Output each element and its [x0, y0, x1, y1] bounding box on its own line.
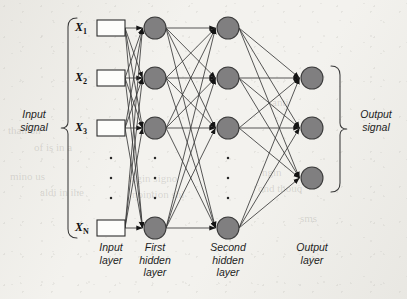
connection-edge-hidden2-to-output — [239, 28, 300, 78]
input-node-3 — [97, 120, 125, 136]
hidden1-ellipsis-dot-1 — [154, 157, 157, 160]
hidden1-node-1 — [144, 17, 166, 39]
hidden1-node-4 — [144, 217, 166, 239]
hidden2-node-2 — [217, 67, 239, 89]
output-signal-label: Output signal — [348, 108, 404, 133]
hidden2-ellipsis-dot-3 — [227, 197, 230, 200]
hidden1-ellipsis-dot-3 — [154, 197, 157, 200]
hidden2-ellipsis-dot-1 — [227, 157, 230, 160]
hidden2-node-1 — [217, 17, 239, 39]
input-variable-name: X — [75, 20, 83, 34]
connection-edge-hidden2-to-output — [239, 128, 300, 228]
connection-edge-hidden2-to-output — [239, 178, 300, 228]
input-variable-subscript: N — [83, 227, 89, 236]
output-node-2 — [301, 117, 323, 139]
input-ellipsis-dot-3 — [110, 197, 113, 200]
input-variable-name: X — [75, 70, 83, 84]
second-hidden-layer-label: Second hidden layer — [200, 241, 256, 279]
first-hidden-layer-label: First hidden layer — [127, 241, 183, 279]
connection-edge-hidden2-to-output — [239, 78, 300, 228]
hidden2-node-3 — [217, 117, 239, 139]
input-variable-label-3: X3 — [75, 120, 87, 136]
output-layer-label: Output layer — [284, 241, 340, 266]
output-node-3 — [301, 167, 323, 189]
input-node-1 — [97, 20, 125, 36]
hidden2-ellipsis-dot-2 — [227, 177, 230, 180]
input-variable-name: X — [75, 220, 83, 234]
neural-network-diagram: than onof is in amino usaldi in iheingin… — [0, 0, 407, 299]
hidden2-node-4 — [217, 217, 239, 239]
hidden1-node-3 — [144, 117, 166, 139]
input-variable-label-2: X2 — [75, 70, 87, 86]
output-node-1 — [301, 67, 323, 89]
hidden1-ellipsis-dot-2 — [154, 177, 157, 180]
input-ellipsis-dot-1 — [110, 157, 113, 160]
input-node-2 — [97, 70, 125, 86]
input-ellipsis-dot-2 — [110, 177, 113, 180]
input-variable-name: X — [75, 120, 83, 134]
input-signal-label: Input signal — [6, 108, 62, 133]
input-node-4 — [97, 220, 125, 236]
input-variable-label-4: XN — [75, 220, 89, 236]
output-signal-brace — [331, 66, 347, 192]
hidden1-node-2 — [144, 67, 166, 89]
input-variable-subscript: 3 — [83, 127, 87, 136]
input-variable-subscript: 1 — [83, 27, 87, 36]
input-variable-subscript: 2 — [83, 77, 87, 86]
input-variable-label-1: X1 — [75, 20, 87, 36]
